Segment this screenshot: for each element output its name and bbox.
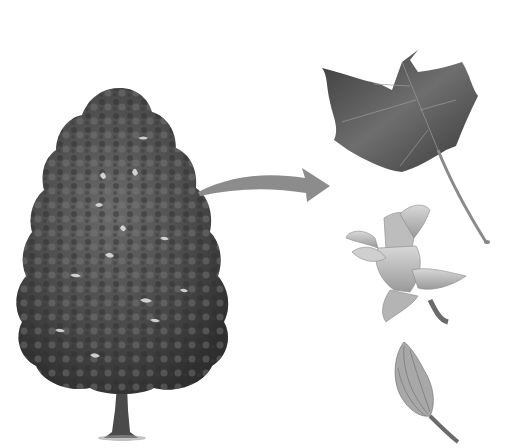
tree (16, 88, 228, 441)
leaf-stem (438, 150, 486, 242)
arrow-icon (198, 168, 330, 202)
illustration-canvas (0, 0, 505, 448)
tulip-bud (395, 342, 458, 442)
tulip-flower (346, 205, 466, 322)
